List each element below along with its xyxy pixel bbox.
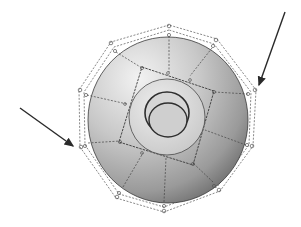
center-hole-inner — [149, 103, 187, 137]
left-arrow — [20, 108, 73, 146]
surface-diagram — [0, 0, 301, 227]
right-arrow — [259, 12, 285, 85]
diagram-canvas — [0, 0, 301, 227]
